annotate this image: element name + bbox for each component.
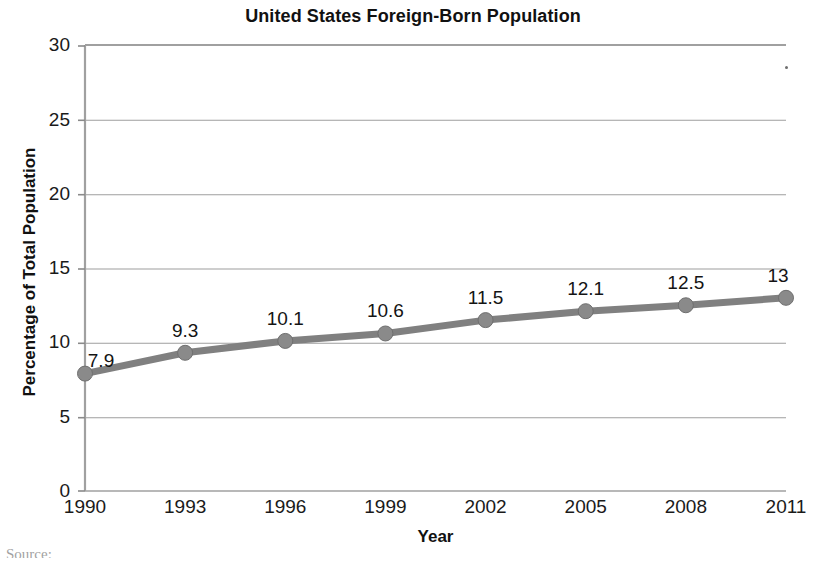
- y-tick-label: 15: [14, 258, 70, 277]
- data-point-label: 9.3: [145, 321, 225, 340]
- x-tick-label: 2011: [741, 497, 826, 516]
- data-point-marker: [178, 345, 193, 360]
- chart-container: United States Foreign-Born Population Pe…: [0, 0, 826, 564]
- x-tick-label: 2008: [641, 497, 731, 516]
- data-point-marker: [678, 298, 693, 313]
- x-tick-label: 2002: [441, 497, 531, 516]
- data-point-marker: [378, 326, 393, 341]
- data-point-marker: [278, 333, 293, 348]
- x-tick-label: 1996: [240, 497, 330, 516]
- scan-speck-artifact: [785, 66, 788, 69]
- gridlines: [85, 120, 786, 417]
- y-tick-label: 30: [14, 35, 70, 54]
- data-point-label: 13: [738, 266, 818, 285]
- y-tick-label: 25: [14, 110, 70, 129]
- data-point-marker: [578, 304, 593, 319]
- y-tick-label: 5: [14, 407, 70, 426]
- data-point-label: 11.5: [446, 288, 526, 307]
- y-tick-label: 20: [14, 184, 70, 203]
- data-point-marker: [779, 290, 794, 305]
- x-tick-label: 1993: [140, 497, 230, 516]
- y-tick-label: 10: [14, 332, 70, 351]
- data-point-label: 7.9: [61, 351, 141, 370]
- source-note: Source:: [6, 546, 52, 558]
- data-point-marker: [478, 313, 493, 328]
- x-tick-label: 1990: [40, 497, 130, 516]
- data-point-label: 10.1: [245, 309, 325, 328]
- x-axis-title: Year: [85, 527, 786, 547]
- data-point-label: 12.1: [546, 279, 626, 298]
- data-point-label: 10.6: [345, 301, 425, 320]
- data-point-label: 12.5: [646, 273, 726, 292]
- x-tick-label: 1999: [340, 497, 430, 516]
- x-tick-label: 2005: [541, 497, 631, 516]
